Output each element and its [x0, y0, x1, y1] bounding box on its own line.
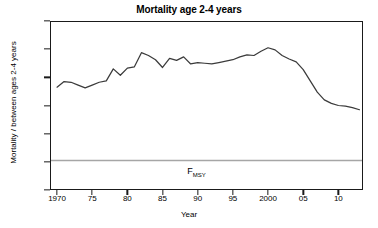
data-series-layer [0, 0, 378, 228]
fmsy-annotation: FMSY [187, 166, 206, 178]
chart-figure: Mortality age 2-4 years Mortality / betw… [0, 0, 378, 228]
mortality-line [57, 48, 359, 110]
x-axis-label: Year [0, 210, 378, 219]
fmsy-subscript: MSY [193, 172, 206, 178]
